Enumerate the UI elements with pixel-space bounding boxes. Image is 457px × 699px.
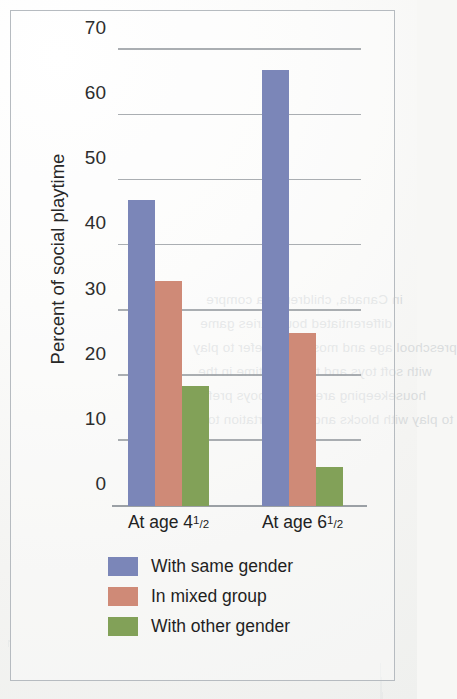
y-axis-tick-label: 40	[64, 212, 106, 234]
legend-item: With other gender	[108, 616, 293, 637]
bar-group	[262, 70, 343, 506]
legend-item: In mixed group	[108, 586, 293, 607]
legend-label: With other gender	[151, 616, 290, 637]
legend-swatch	[108, 587, 138, 606]
bar	[155, 281, 182, 506]
legend-label: In mixed group	[151, 586, 267, 607]
y-axis-tick-label: 30	[64, 278, 106, 300]
legend-swatch	[108, 617, 138, 636]
bar	[262, 70, 289, 506]
gridline	[118, 48, 361, 50]
bar-group	[128, 200, 209, 506]
legend-item: With same gender	[108, 556, 293, 577]
legend-swatch	[108, 557, 138, 576]
bar	[128, 200, 155, 506]
y-axis-tick-label: 50	[64, 147, 106, 169]
category-label: At age 41/2	[106, 512, 231, 533]
y-axis-tick-label: 10	[64, 408, 106, 430]
bar	[182, 386, 209, 507]
y-axis-tick-label: 60	[64, 82, 106, 104]
category-label: At age 61/2	[240, 512, 365, 533]
y-axis-tick-label: 70	[64, 17, 106, 39]
y-axis-tick-labels: 010203040506070	[62, 50, 106, 506]
y-axis-tick-label: 20	[64, 343, 106, 365]
plot-area: At age 41/2At age 61/2	[118, 50, 361, 506]
chart-legend: With same genderIn mixed groupWith other…	[108, 556, 293, 646]
bar	[289, 333, 316, 506]
y-axis-tick-label: 0	[64, 473, 106, 495]
legend-label: With same gender	[151, 556, 293, 577]
bar	[316, 467, 343, 506]
